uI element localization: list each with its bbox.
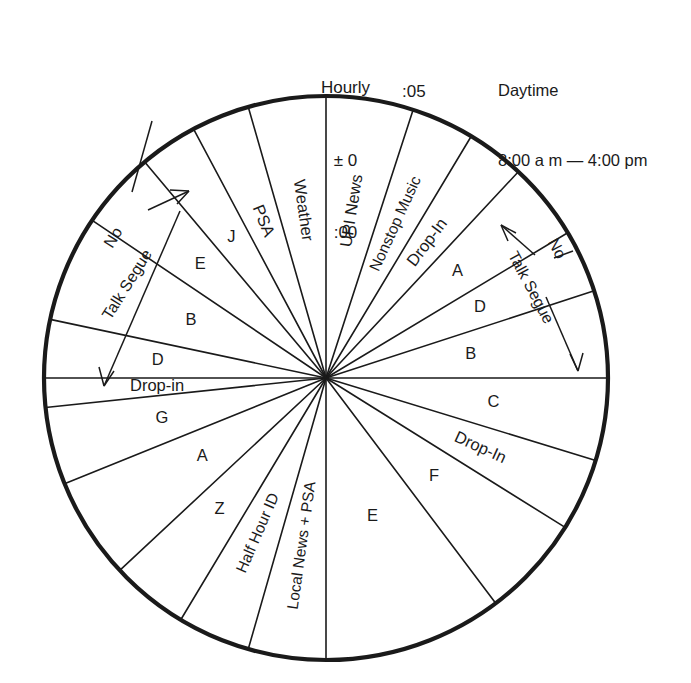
segment-label-drop-in-right: Drop-In xyxy=(452,427,510,466)
hourly-mark: :00 xyxy=(0,221,691,245)
format-wheel-diagram: Hourly ± 0 :00 Daytime 8:00 a m — 4:00 p… xyxy=(0,0,691,683)
tick-label-05: :05 xyxy=(402,82,426,102)
segment-divider xyxy=(65,378,326,484)
segment-label-c-right: C xyxy=(487,392,499,410)
segment-divider xyxy=(326,378,565,527)
segment-label-g-left: G xyxy=(155,408,168,426)
segment-divider xyxy=(46,378,326,407)
segment-label-e-bottom-right: E xyxy=(367,506,378,524)
segment-label-z-bottom-left: Z xyxy=(214,499,224,517)
segment-label-local-news-psa: Local News + PSA xyxy=(284,480,319,611)
segment-divider xyxy=(326,378,496,603)
segment-label-drop-in-left: Drop-in xyxy=(130,376,184,394)
segment-label-f-bottom-right: F xyxy=(429,466,439,484)
segment-divider xyxy=(326,378,596,460)
segment-label-d-top-left: D xyxy=(152,350,164,368)
daytime-header: Daytime 8:00 a m — 4:00 pm xyxy=(498,32,648,219)
segment-label-d-top-right: D xyxy=(474,297,486,315)
daytime-hours: 8:00 a m — 4:00 pm xyxy=(498,149,648,172)
daytime-title: Daytime xyxy=(498,79,648,102)
segment-label-half-hour-id: Half Hour ID xyxy=(232,490,282,575)
segment-label-b-top-left: B xyxy=(186,310,197,328)
segment-label-a-bottom-left: A xyxy=(197,446,208,464)
segment-label-b-top-right: B xyxy=(465,344,476,362)
